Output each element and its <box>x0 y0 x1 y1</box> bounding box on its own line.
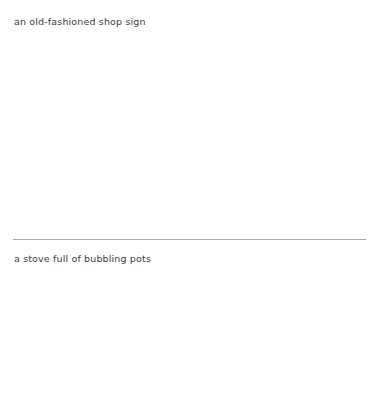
caption-text-second: a stove full of bubbling pots <box>14 253 151 265</box>
blank-image-area-lower <box>0 268 378 408</box>
caption-text-first: an old-fashioned shop sign <box>14 16 146 28</box>
document-page: an old-fashioned shop sign a stove full … <box>0 0 378 408</box>
horizontal-rule <box>13 239 366 240</box>
blank-image-area-upper <box>0 34 378 238</box>
